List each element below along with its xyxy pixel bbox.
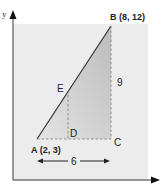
- vertical-measure-label: 9: [117, 77, 123, 88]
- x-axis-arrow-icon: [151, 177, 160, 184]
- point-c-label: C: [114, 137, 121, 148]
- coordinate-diagram: y x B (8, 12) A (2, 3) C D E 9 6: [0, 0, 162, 188]
- point-b-label: B (8, 12): [110, 12, 145, 22]
- point-d-label: D: [70, 128, 77, 139]
- y-axis-arrow-icon: [10, 10, 17, 19]
- point-e-label: E: [57, 83, 64, 94]
- point-a-label: A (2, 3): [31, 145, 61, 155]
- x-axis-label: x: [152, 184, 157, 188]
- horizontal-measure-label: 6: [71, 156, 77, 167]
- y-axis-label: y: [2, 9, 7, 19]
